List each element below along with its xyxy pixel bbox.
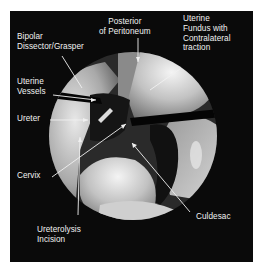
label-ureter: Ureter	[17, 114, 40, 124]
label-culdesac: Culdesac	[196, 212, 231, 222]
label-ureterolysis-incision: Ureterolysis Incision	[37, 225, 81, 245]
label-bipolar-dissector: Bipolar Dissector/Grasper	[17, 32, 84, 52]
label-posterior-peritoneum: Posterior of Peritoneum	[99, 17, 151, 37]
label-uterine-vessels: Uterine Vessels	[17, 77, 46, 97]
label-uterine-fundus: Uterine Fundus with Contralateral tracti…	[183, 14, 231, 53]
label-cervix: Cervix	[17, 171, 41, 181]
